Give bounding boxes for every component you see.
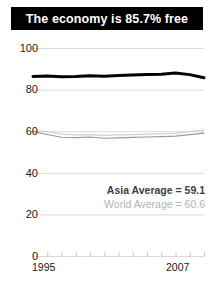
y-axis-tick-label: 100 [0, 43, 38, 54]
line-chart: 100 80 60 40 20 0 1995 2007 Asia Average… [0, 0, 213, 304]
legend-item-asia-average: Asia Average = 59.1 [60, 183, 205, 197]
y-axis-tick-label: 80 [0, 84, 38, 95]
chart-legend: Asia Average = 59.1 World Average = 60.6 [60, 183, 205, 211]
legend-item-world-average: World Average = 60.6 [60, 197, 205, 211]
y-axis-tick-label: 20 [0, 209, 38, 220]
series-line-economy [33, 73, 204, 78]
x-axis-tick-label: 1995 [32, 262, 55, 273]
series-line-world-average [33, 130, 204, 135]
chart-x-tickmarks [34, 253, 205, 257]
chart-series-group [33, 73, 204, 138]
y-axis-tick-label: 60 [0, 126, 38, 137]
x-axis-tick-label: 2007 [166, 262, 189, 273]
chart-gridlines [33, 49, 204, 257]
y-axis-tick-label: 40 [0, 168, 38, 179]
